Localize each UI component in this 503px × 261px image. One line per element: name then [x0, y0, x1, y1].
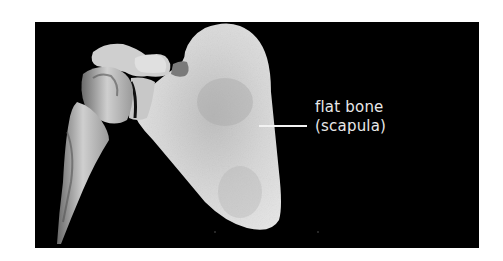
callout-label-line1: flat bone	[315, 98, 384, 116]
figure-panel: flat bone (scapula)	[35, 22, 479, 248]
humerus-shaft	[57, 102, 109, 244]
callout-leader-line	[259, 125, 307, 127]
scapula-illustration	[35, 22, 479, 248]
callout-label-line2: (scapula)	[315, 117, 386, 135]
